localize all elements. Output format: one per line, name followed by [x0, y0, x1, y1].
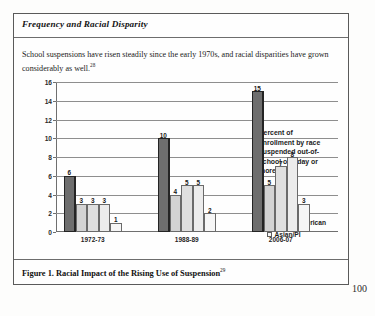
y-axis-label: 10 [36, 135, 52, 142]
bar: 3 [76, 204, 88, 232]
bar-value-label: 7 [279, 160, 283, 167]
y-axis-label: 4 [36, 191, 52, 198]
body-footnote-marker: 28 [90, 62, 95, 68]
figure-caption: Figure 1. Racial Impact of the Rising Us… [22, 267, 225, 278]
bar-value-label: 6 [67, 169, 71, 176]
bar-chart: 0246810121416 63331104552155783 Percent … [14, 70, 350, 262]
caption-footnote-marker: 29 [220, 267, 225, 273]
bar-value-label: 3 [102, 197, 106, 204]
bar: 3 [99, 204, 111, 232]
y-axis-tick [53, 101, 56, 102]
bar: 5 [193, 185, 205, 232]
bar: 5 [181, 185, 193, 232]
y-axis-label: 12 [36, 116, 52, 123]
bar-value-label: 3 [91, 197, 95, 204]
bar-value-label: 1 [114, 216, 118, 223]
y-axis-tick [53, 176, 56, 177]
bar: 5 [264, 185, 276, 232]
bar-value-label: 5 [196, 179, 200, 186]
bar-group: 104552 [158, 82, 216, 232]
y-axis-tick [53, 138, 56, 139]
y-axis-label: 8 [36, 154, 52, 161]
bar-value-label: 8 [290, 151, 294, 158]
y-axis-tick [53, 195, 56, 196]
bar-value-label: 3 [302, 197, 306, 204]
bar-value-label: 4 [173, 188, 177, 195]
section-heading: Frequency and Racial Disparity [22, 19, 148, 29]
bar: 10 [158, 138, 170, 232]
y-axis-tick [53, 157, 56, 158]
x-axis-label: 1972-73 [81, 236, 105, 243]
bar: 4 [170, 195, 182, 233]
y-axis-label: 2 [36, 210, 52, 217]
plot-area: 63331104552155783 [56, 82, 338, 232]
bar: 15 [252, 91, 264, 232]
bar-value-label: 10 [160, 132, 167, 139]
y-axis-label: 14 [36, 97, 52, 104]
figure-container: Frequency and Racial Disparity School su… [13, 13, 349, 285]
bar-value-label: 3 [79, 197, 83, 204]
bar: 3 [298, 204, 310, 232]
y-axis-tick [53, 232, 56, 233]
page-number: 100 [352, 283, 367, 294]
bar: 7 [275, 166, 287, 232]
figure-caption-text: Figure 1. Racial Impact of the Rising Us… [22, 269, 220, 278]
y-axis-label: 0 [36, 229, 52, 236]
x-axis-label: 2006-07 [269, 236, 293, 243]
bar: 6 [64, 176, 76, 232]
bar: 8 [287, 157, 299, 232]
caption-divider [14, 259, 348, 260]
y-axis: 0246810121416 [24, 82, 52, 232]
bar-value-label: 15 [254, 85, 261, 92]
y-axis-label: 16 [36, 79, 52, 86]
y-axis-tick [53, 120, 56, 121]
bar: 2 [204, 213, 216, 232]
bar-value-label: 2 [208, 207, 212, 214]
y-axis-tick [53, 82, 56, 83]
heading-divider [14, 37, 348, 38]
bar: 1 [110, 223, 122, 232]
y-axis-tick [53, 213, 56, 214]
y-axis-label: 6 [36, 172, 52, 179]
bar-group: 63331 [64, 82, 122, 232]
document-page: Frequency and Racial Disparity School su… [0, 0, 375, 316]
bar-value-label: 5 [185, 179, 189, 186]
x-axis-label: 1988-89 [175, 236, 199, 243]
bar-value-label: 5 [267, 179, 271, 186]
bar: 3 [87, 204, 99, 232]
